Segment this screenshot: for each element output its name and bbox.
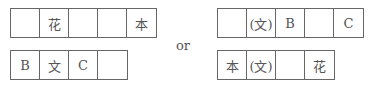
right-top-row: (文) B C [217,8,364,38]
cell: 本 [127,9,156,37]
cell: C [69,51,98,79]
cell [69,9,98,37]
cell: 文 [40,51,69,79]
cell: (文) [247,51,276,79]
cell: (文) [247,9,276,37]
cell: 花 [305,51,334,79]
left-top-row: 花 本 [10,8,157,38]
cell: B [276,9,305,37]
cell: 花 [40,9,69,37]
cell [98,51,127,79]
or-connector: or [176,38,190,53]
cell [276,51,305,79]
cell [98,9,127,37]
cell: B [11,51,40,79]
cell [305,9,334,37]
cell [218,9,247,37]
left-bottom-row: B 文 C [10,50,128,80]
cell [11,9,40,37]
cell: C [334,9,363,37]
cell: 本 [218,51,247,79]
right-bottom-row: 本 (文) 花 [217,50,335,80]
